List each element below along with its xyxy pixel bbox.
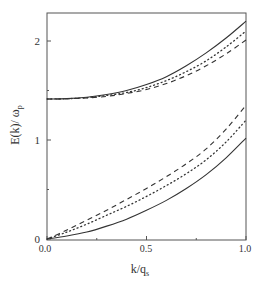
x-tick-label-2: 1.0 <box>239 243 252 254</box>
x-axis-label-sub: s <box>146 269 149 278</box>
series-line-dashed <box>47 105 246 239</box>
y-axis-label-main: E(k)/ ω <box>8 109 22 145</box>
series-line-dotted <box>47 120 246 239</box>
series-line-dashed <box>47 40 246 99</box>
y-tick-label-1: 1 <box>35 134 41 146</box>
dispersion-chart: 2 1 0 0.0 0.5 1.0 k/qs E(k)/ ωp <box>0 0 263 290</box>
x-axis-label: k/qs <box>131 262 149 278</box>
y-tick-label-2: 2 <box>35 35 41 47</box>
plot-frame <box>47 13 246 240</box>
x-axis-label-main: k/q <box>131 262 146 276</box>
series-line-dotted <box>47 31 246 99</box>
x-tick-label-0: 0.0 <box>39 243 52 254</box>
x-tick-label-1: 0.5 <box>140 243 153 254</box>
data-series <box>47 21 246 239</box>
y-axis-label: E(k)/ ωp <box>8 105 24 145</box>
y-axis-label-sub: p <box>15 105 24 109</box>
